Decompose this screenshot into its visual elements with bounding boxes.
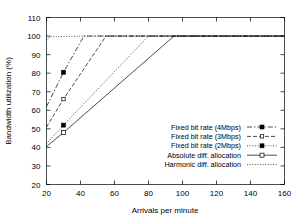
y-tick-label: 20: [32, 181, 41, 190]
x-tick-label: 120: [210, 189, 224, 198]
legend-label: Fixed bit rate (3Mbps): [171, 132, 241, 141]
x-tick-label: 140: [244, 189, 258, 198]
x-axis-title: Arrivals per minute: [132, 206, 199, 215]
series-line: [47, 36, 285, 127]
x-tick-label: 80: [144, 189, 153, 198]
x-tick-label: 20: [42, 189, 51, 198]
legend-label: Harmonic diff. allocation: [164, 160, 241, 169]
series-line: [47, 36, 285, 146]
y-tick-label: 80: [32, 69, 41, 78]
y-tick-label: 110: [28, 14, 41, 23]
y-tick-label: 60: [32, 106, 41, 115]
legend-label: Fixed bit rate (2Mbps): [171, 141, 241, 150]
series-line: [47, 36, 285, 144]
chart-legend: Fixed bit rate (4Mbps)Fixed bit rate (3M…: [164, 123, 277, 170]
chart-container: 2030405060708090100110 20406080100120140…: [0, 0, 304, 223]
data-point-marker: [62, 70, 66, 74]
y-tick-label: 70: [32, 88, 41, 97]
legend-label: Fixed bit rate (4Mbps): [171, 123, 241, 132]
legend-label: Absolute diff. allocation: [167, 151, 241, 160]
y-tick-label: 100: [27, 32, 41, 41]
y-tick-label: 50: [32, 125, 41, 134]
data-point-marker: [62, 123, 66, 127]
data-point-marker: [62, 131, 66, 135]
y-axis-title: Bandwidth utilization (%): [4, 57, 13, 145]
series-3: [47, 36, 285, 144]
bandwidth-utilization-line-chart: 2030405060708090100110 20406080100120140…: [0, 0, 304, 223]
x-tick-label: 100: [176, 189, 190, 198]
x-tick-label: 60: [110, 189, 119, 198]
y-tick-label: 30: [32, 162, 41, 171]
legend-sample-marker: [260, 135, 263, 138]
data-point-marker: [62, 97, 65, 100]
data-series-group: [47, 36, 285, 146]
legend-sample-marker: [260, 144, 264, 148]
x-tick-label: 160: [278, 189, 292, 198]
y-tick-label: 90: [32, 51, 41, 60]
legend-sample-marker: [260, 125, 264, 129]
x-tick-label: 40: [76, 189, 85, 198]
legend-sample-marker: [260, 153, 264, 157]
series-2: [47, 36, 285, 127]
y-tick-label: 40: [32, 143, 41, 152]
series-4: [47, 36, 285, 146]
y-axis: 2030405060708090100110: [27, 14, 284, 190]
